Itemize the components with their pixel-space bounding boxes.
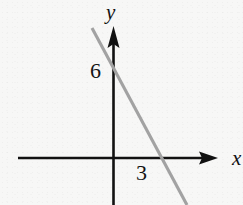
x-axis-label: x bbox=[232, 148, 241, 169]
y-axis-label: y bbox=[106, 2, 115, 23]
y-intercept-tick-label: 6 bbox=[90, 60, 101, 82]
x-intercept-tick-label: 3 bbox=[136, 162, 147, 184]
coordinate-plane bbox=[0, 0, 243, 205]
graph-figure: y x 6 3 bbox=[0, 0, 243, 205]
